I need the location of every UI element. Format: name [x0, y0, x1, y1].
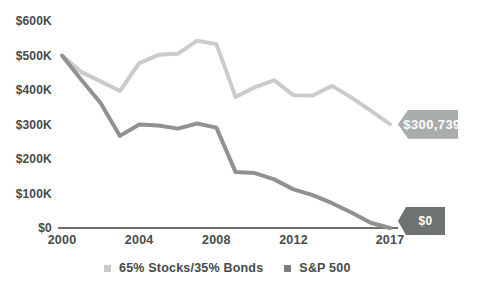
end-label-stocks-bonds-text: $300,739 — [395, 117, 460, 132]
legend-item: S&P 500 — [284, 261, 350, 275]
end-label-stocks-bonds: $300,739 — [398, 110, 458, 139]
y-tick-label: $100K — [0, 186, 52, 202]
x-tick-label: 2000 — [36, 232, 88, 248]
legend-label: 65% Stocks/35% Bonds — [119, 261, 263, 275]
legend: 65% Stocks/35% BondsS&P 500 — [104, 261, 351, 275]
x-tick-label: 2004 — [113, 232, 165, 248]
series-line-stocks-bonds — [62, 41, 390, 125]
legend-swatch-icon — [284, 265, 291, 272]
series-line-sp500 — [62, 56, 390, 229]
x-tick-label: 2008 — [190, 232, 242, 248]
legend-item: 65% Stocks/35% Bonds — [104, 261, 263, 275]
legend-label: S&P 500 — [299, 261, 350, 275]
y-tick-label: $200K — [0, 151, 52, 167]
x-tick-label: 2012 — [268, 232, 320, 248]
end-label-sp500: $0 — [398, 207, 445, 235]
y-tick-label: $400K — [0, 82, 52, 98]
legend-swatch-icon — [104, 265, 111, 272]
end-label-sp500-text: $0 — [410, 214, 432, 228]
y-tick-label: $500K — [0, 48, 52, 64]
y-tick-label: $300K — [0, 117, 52, 133]
chart-container: $600K$500K$400K$300K$200K$100K$0 2000200… — [0, 0, 482, 291]
y-tick-label: $600K — [0, 13, 52, 29]
